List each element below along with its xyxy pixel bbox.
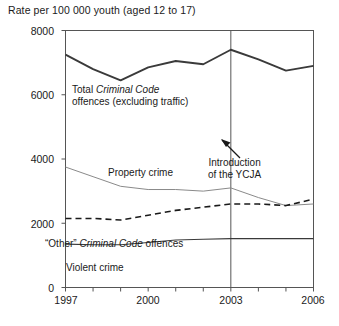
x-tick-label: 2003 [210, 294, 252, 306]
series-line-0 [66, 50, 314, 81]
annotation-ycja-line1: Introduction [208, 157, 260, 168]
annotation-ycja-line2: of the YCJA [208, 169, 261, 180]
annotation-violent-crime: Violent crime [66, 262, 124, 274]
chart-figure: Rate per 100 000 youth (aged 12 to 17) 8… [0, 0, 339, 326]
y-tick-label: 4000 [10, 153, 54, 165]
x-tick-label: 1997 [45, 294, 87, 306]
annotation-total-crime: Total Criminal Code offences (excluding … [72, 84, 188, 108]
y-tick-label: 2000 [10, 218, 54, 230]
series-line-1 [66, 167, 314, 206]
x-axis-ticks [66, 288, 314, 292]
y-tick-label: 0 [10, 282, 54, 294]
annotation-property-crime: Property crime [108, 167, 173, 179]
data-series-layer [66, 50, 314, 245]
y-tick-label: 6000 [10, 89, 54, 101]
annotation-ycja: Introduction of the YCJA [208, 157, 261, 181]
y-tick-label: 8000 [10, 25, 54, 37]
annotation-total-crime-line1: Total Criminal Code [72, 84, 159, 95]
annotation-total-crime-line2: offences (excluding traffic) [72, 96, 188, 107]
x-tick-label: 2006 [292, 294, 334, 306]
x-tick-label: 2000 [127, 294, 169, 306]
annotation-other-offences: “Other” Criminal Code offences [45, 238, 183, 250]
